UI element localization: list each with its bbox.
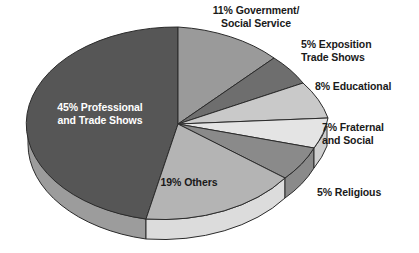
slice-label-government-social-service: 11% Government/ Social Service (186, 4, 326, 29)
slice-label-religious: 5% Religious (317, 186, 419, 199)
slice-label-professional-and-trade-shows: 45% Professional and Trade Shows (34, 101, 166, 126)
slice-label-educational: 8% Educational (315, 80, 419, 93)
pie-chart-figure: 11% Government/ Social Service 5% Exposi… (0, 0, 419, 253)
slice-label-others: 19% Others (139, 176, 239, 189)
slice-label-exposition-trade-shows: 5% Exposition Trade Shows (301, 38, 419, 63)
slice-label-fraternal-and-social: 7% Fraternal and Social (322, 121, 419, 146)
